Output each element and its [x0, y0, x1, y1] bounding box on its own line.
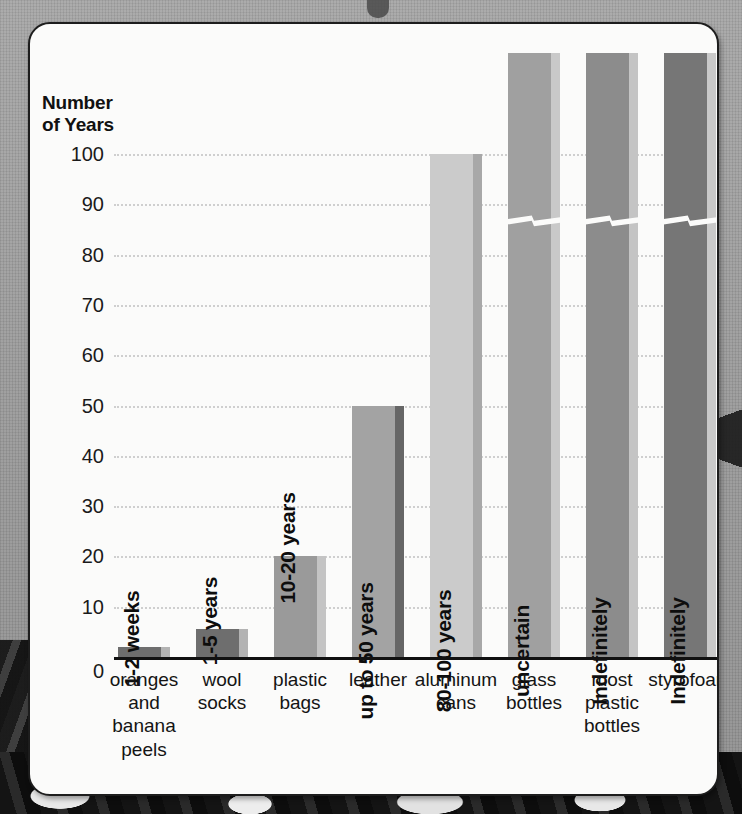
bar-edge-highlight	[317, 556, 326, 657]
y-axis-tick-90: 90	[44, 193, 104, 216]
bar-edge-highlight	[395, 406, 404, 658]
bar-body	[430, 154, 473, 657]
x-axis-label-line: banana	[84, 714, 204, 737]
y-axis-tick-30: 30	[44, 495, 104, 518]
bar-plastic-bags[interactable]: 10-20 years	[274, 556, 326, 657]
bar-edge-highlight	[707, 53, 716, 657]
y-axis-tick-10: 10	[44, 595, 104, 618]
bar-styrofoam[interactable]: Indefinitely	[664, 53, 716, 657]
bar-edge-highlight	[161, 647, 170, 657]
y-axis-tick-80: 80	[44, 243, 104, 266]
bar-most-plastic-bottles[interactable]: Indefinitely	[586, 53, 638, 657]
bar-edge-highlight	[239, 629, 248, 657]
y-axis-tick-100: 100	[44, 143, 104, 166]
x-axis-line	[114, 657, 717, 660]
chart-panel: Number of Years 1009080706050403020100 1…	[28, 22, 719, 796]
bar-oranges-and-banana-peels[interactable]: 1-2 weeks	[118, 647, 170, 657]
bar-edge-highlight	[473, 154, 482, 657]
x-axis-label-line: peels	[84, 738, 204, 761]
y-axis-tick-40: 40	[44, 444, 104, 467]
bar-edge-highlight	[629, 53, 638, 657]
x-axis-label-line: plastic	[552, 691, 672, 714]
y-axis-tick-60: 60	[44, 344, 104, 367]
y-axis-tick-20: 20	[44, 545, 104, 568]
x-axis-label-styrofoam: styrofoam	[630, 668, 719, 691]
bar-glass-bottles[interactable]: uncertain	[508, 53, 560, 657]
background-artwork-top	[367, 0, 389, 18]
bar-wool-socks[interactable]: 1-5 years	[196, 629, 248, 657]
y-axis-tick-70: 70	[44, 293, 104, 316]
x-axis-label-line: bottles	[552, 714, 672, 737]
bar-edge-highlight	[551, 53, 560, 657]
bar-value-label: 10-20 years	[276, 493, 300, 604]
y-axis-tick-50: 50	[44, 394, 104, 417]
x-axis-label-line: styrofoam	[630, 668, 719, 691]
bar-body	[586, 53, 629, 657]
x-axis-label-line: bags	[240, 691, 360, 714]
bar-body	[508, 53, 551, 657]
plot-area: 1009080706050403020100 1-2 weeks1-5 year…	[30, 24, 717, 794]
bar-leather[interactable]: up to 50 years	[352, 406, 404, 658]
bar-body	[664, 53, 707, 657]
bar-value-label: 1-5 years	[198, 577, 222, 665]
bar-aluminum-cans[interactable]: 80-100 years	[430, 154, 482, 657]
